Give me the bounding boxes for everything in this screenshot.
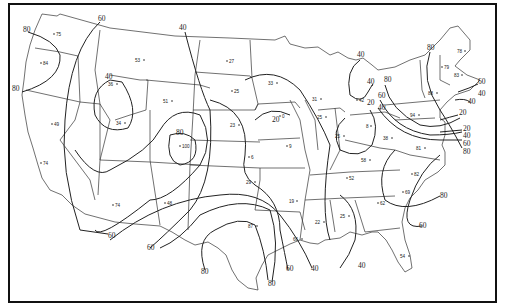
station-value: 54 [400,254,406,259]
station-value: 25 [234,89,240,94]
isoline-label: 80 [12,84,20,93]
station-value: 74 [115,203,121,208]
isoline-label: 80 [268,279,276,288]
station-value: 69 [405,190,411,195]
isoline-label: 80 [463,147,471,156]
isoline-label: 20 [272,115,280,124]
station-value: 58 [361,158,367,163]
station-value: 94 [410,113,416,118]
isoline-label: 80 [440,191,448,200]
station-values: 75 84 53 27 36 51 25 33 31 42 49 34 23 0… [40,32,466,259]
station-value: 79 [444,65,450,70]
station-value: 19 [289,199,295,204]
station-value: 83 [454,73,460,78]
station-value: 75 [56,32,62,37]
isoline-label: 40 [367,77,375,86]
station-value: 78 [457,49,463,54]
station-value: 52 [349,176,355,181]
isoline-label: 80 [427,43,435,52]
isoline-label: 40 [105,72,113,81]
station-value: 31 [312,97,318,102]
station-value: 49 [54,122,60,127]
station-value: 0 [282,114,285,119]
station-value: 38 [383,136,389,141]
isoline-label: 40 [478,89,486,98]
station-value: 23 [230,123,236,128]
station-value: 25 [335,134,341,139]
station-value: 29 [246,180,252,185]
station-value: 100 [182,144,190,149]
station-value: 25 [317,115,323,120]
isoline-label: 60 [478,77,486,86]
state-boundaries [26,30,450,240]
isoline-label: 80 [201,267,209,276]
isoline-map: 80 60 80 40 40 80 20 40 40 20 40 60 80 8… [0,0,505,306]
station-value: 87 [248,224,254,229]
station-value: 74 [43,161,49,166]
station-value: 62 [380,201,386,206]
station-value: 36 [108,82,114,87]
station-value: 84 [43,61,49,66]
us-map-svg: 80 60 80 40 40 80 20 40 40 20 40 60 80 8… [0,0,505,306]
isoline-label: 20 [367,98,375,107]
isoline-label: 60 [98,14,106,23]
station-value: 48 [167,201,173,206]
station-value: 33 [268,81,274,86]
isoline-label: 40 [311,264,319,273]
map-border [9,4,496,302]
station-value: 25 [340,214,346,219]
isoline-label: 60 [147,243,155,252]
station-value: 22 [315,220,321,225]
station-value: 81 [416,146,422,151]
isoline-label: 20 [459,108,467,117]
station-value: 9 [289,144,292,149]
isoline-labels: 80 60 80 40 40 80 20 40 40 20 40 60 80 8… [12,14,486,288]
isoline-label: 80 [23,25,31,34]
isoline-label: 60 [286,264,294,273]
isoline-label: 60 [108,231,116,240]
isoline-label: 40 [468,97,476,106]
station-value: 88 [428,91,434,96]
station-value: 66 [293,237,299,242]
station-value: 8 [366,124,369,129]
isoline-label: 40 [378,103,386,112]
isoline-label: 80 [384,75,392,84]
station-value: 42 [359,98,365,103]
station-value: 51 [163,99,169,104]
isoline-label: 60 [419,221,427,230]
station-value: 53 [135,58,141,63]
isolines [22,22,478,282]
station-value: 34 [116,121,122,126]
isoline-label: 40 [179,23,187,32]
isoline-label: 60 [378,91,386,100]
isoline-label: 40 [358,261,366,270]
station-value: 27 [229,59,235,64]
station-value: 82 [414,172,420,177]
isoline-label: 40 [357,50,365,59]
isoline-label: 80 [176,128,184,137]
station-value: 6 [251,155,254,160]
